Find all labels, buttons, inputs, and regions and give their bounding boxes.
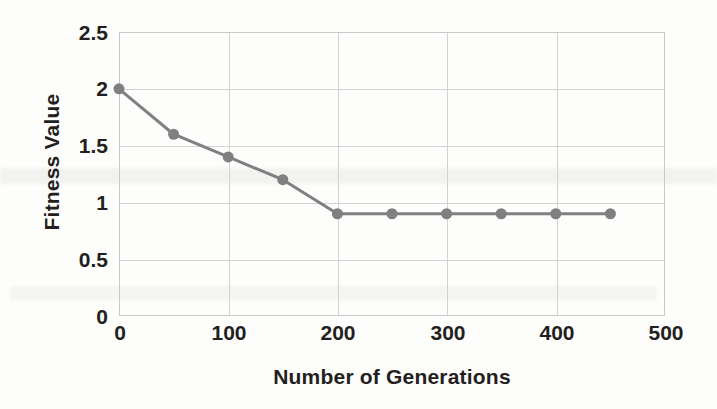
- gridline-horizontal: [120, 203, 664, 204]
- y-tick-label: 0.5: [0, 249, 108, 270]
- gridline-vertical: [557, 33, 558, 315]
- gridline-vertical: [447, 33, 448, 315]
- x-tick-label: 200: [298, 322, 378, 343]
- y-tick-label: 1: [0, 192, 108, 213]
- y-tick-label: 2.5: [0, 22, 108, 43]
- gridline-vertical: [338, 33, 339, 315]
- gridline-vertical: [229, 33, 230, 315]
- plot-area: [119, 32, 665, 316]
- x-tick-label: 400: [517, 322, 597, 343]
- y-tick-label: 1.5: [0, 135, 108, 156]
- gridline-horizontal: [120, 260, 664, 261]
- x-tick-label: 0: [80, 322, 160, 343]
- x-tick-label: 100: [189, 322, 269, 343]
- gridline-horizontal: [120, 89, 664, 90]
- gridline-horizontal: [120, 146, 664, 147]
- x-axis-title: Number of Generations: [119, 365, 665, 389]
- x-tick-label: 300: [408, 322, 488, 343]
- fitness-value-line-chart: Fitness Value 2.5 2 1.5 1 0.5 0 0 100 20…: [0, 0, 717, 409]
- y-tick-label: 2: [0, 78, 108, 99]
- x-tick-label: 500: [626, 322, 706, 343]
